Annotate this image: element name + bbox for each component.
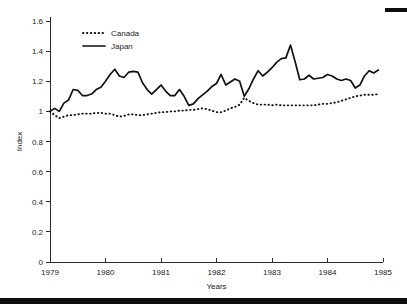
chart-axes: 00.20.40.60.811.21.41.619791980198119821… xyxy=(32,17,393,277)
legend-label-japan: Japan xyxy=(111,42,133,51)
series-line-japan xyxy=(50,45,378,111)
x-axis-tick-label: 1982 xyxy=(208,268,226,277)
line-chart: 00.20.40.60.811.21.41.619791980198119821… xyxy=(0,0,407,304)
y-axis-tick-label: 0.6 xyxy=(32,168,44,177)
y-axis-tick-label: 0.8 xyxy=(32,138,44,147)
series-line-canada xyxy=(50,94,378,118)
x-axis-tick-label: 1985 xyxy=(374,268,392,277)
chart-figure: 00.20.40.60.811.21.41.619791980198119821… xyxy=(0,0,407,304)
y-axis-tick-label: 1 xyxy=(39,107,44,116)
y-axis-tick-label: 1.6 xyxy=(32,17,44,26)
x-axis-tick-label: 1983 xyxy=(263,268,281,277)
legend-label-canada: Canada xyxy=(111,29,140,38)
x-axis-title: Years xyxy=(206,282,226,291)
x-axis-tick-label: 1984 xyxy=(319,268,337,277)
x-axis-tick-label: 1981 xyxy=(152,268,170,277)
y-axis-tick-label: 0.4 xyxy=(32,198,44,207)
y-axis-tick-label: 0.2 xyxy=(32,228,44,237)
x-axis-tick-label: 1980 xyxy=(97,268,115,277)
chart-legend: CanadaJapan xyxy=(83,29,140,51)
scan-artifact-bottom-band xyxy=(0,298,407,304)
y-axis-tick-label: 0 xyxy=(39,258,44,267)
x-axis-tick-label: 1979 xyxy=(41,268,59,277)
chart-series xyxy=(50,45,378,118)
y-axis-title: Index xyxy=(15,132,24,152)
y-axis-tick-label: 1.2 xyxy=(32,77,44,86)
scan-artifact-top-right-bar xyxy=(385,8,407,12)
y-axis-tick-label: 1.4 xyxy=(32,47,44,56)
